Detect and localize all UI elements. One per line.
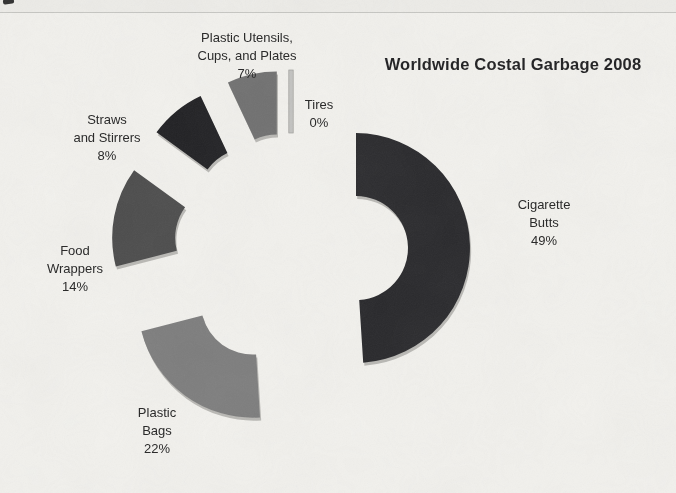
slice-label-straws-and-stirrers: Strawsand Stirrers8% bbox=[73, 111, 140, 165]
slice-plastic-bags bbox=[141, 316, 260, 418]
slice-label-plastic-bags: PlasticBags22% bbox=[138, 404, 176, 458]
slice-label-tires: Tires0% bbox=[305, 96, 333, 132]
scanned-chart-page: Worldwide Costal Garbage 2008 CigaretteB… bbox=[0, 0, 676, 493]
slice-label-cigarette-butts: CigaretteButts49% bbox=[518, 196, 571, 250]
slice-label-food-wrappers: FoodWrappers14% bbox=[47, 242, 103, 296]
slice-cigarette-butts bbox=[356, 133, 470, 363]
slice-label-plastic-utensils-cups-and-plates: Plastic Utensils,Cups, and Plates7% bbox=[197, 29, 296, 83]
